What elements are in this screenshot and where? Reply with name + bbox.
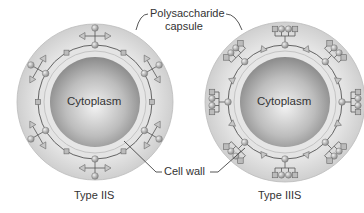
cell-wall-label: Cell wall (164, 165, 205, 177)
cytoplasm-label-right: Cytoplasm (257, 95, 311, 107)
capsule-leader-right (226, 14, 242, 30)
capsule-label-line1: Polysaccharide (150, 7, 225, 19)
cytoplasm-label-left: Cytoplasm (67, 95, 121, 107)
capsule-label-line2: capsule (165, 20, 203, 32)
type-iiis-label: Type IIIS (258, 189, 301, 201)
type-iis-label: Type IIS (74, 189, 114, 201)
capsule-leader-left (136, 14, 148, 30)
